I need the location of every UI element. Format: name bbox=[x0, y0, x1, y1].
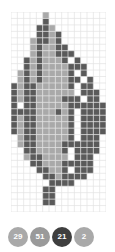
pattern-cell[interactable] bbox=[36, 70, 42, 76]
pattern-cell[interactable] bbox=[43, 70, 49, 76]
pattern-cell[interactable] bbox=[30, 109, 36, 115]
pattern-cell[interactable] bbox=[87, 102, 93, 108]
pattern-cell[interactable] bbox=[24, 83, 30, 89]
pattern-cell[interactable] bbox=[87, 154, 93, 160]
pattern-cell[interactable] bbox=[62, 44, 68, 50]
pattern-cell[interactable] bbox=[49, 89, 55, 95]
pattern-cell[interactable] bbox=[36, 57, 42, 63]
pattern-cell[interactable] bbox=[49, 173, 55, 179]
pattern-cell[interactable] bbox=[55, 167, 61, 173]
pattern-cell[interactable] bbox=[93, 109, 99, 115]
pattern-cell[interactable] bbox=[81, 173, 87, 179]
pattern-cell[interactable] bbox=[49, 96, 55, 102]
pattern-cell[interactable] bbox=[62, 173, 68, 179]
pattern-cell[interactable] bbox=[17, 128, 23, 134]
pattern-cell[interactable] bbox=[74, 167, 80, 173]
pattern-cell[interactable] bbox=[74, 57, 80, 63]
pattern-cell[interactable] bbox=[24, 77, 30, 83]
pattern-cell[interactable] bbox=[49, 193, 55, 199]
pattern-cell[interactable] bbox=[24, 57, 30, 63]
pattern-cell[interactable] bbox=[81, 122, 87, 128]
pattern-cell[interactable] bbox=[68, 160, 74, 166]
pattern-cell[interactable] bbox=[49, 64, 55, 70]
pattern-cell[interactable] bbox=[49, 167, 55, 173]
legend-badge-dark[interactable]: 21 bbox=[52, 227, 72, 247]
pattern-cell[interactable] bbox=[93, 141, 99, 147]
pattern-cell[interactable] bbox=[87, 147, 93, 153]
pattern-cell[interactable] bbox=[43, 31, 49, 37]
pattern-cell[interactable] bbox=[62, 57, 68, 63]
pattern-cell[interactable] bbox=[81, 141, 87, 147]
pattern-cell[interactable] bbox=[49, 199, 55, 205]
pattern-cell[interactable] bbox=[36, 128, 42, 134]
pattern-cell[interactable] bbox=[62, 128, 68, 134]
pattern-cell[interactable] bbox=[68, 89, 74, 95]
pattern-cell[interactable] bbox=[55, 96, 61, 102]
pattern-cell[interactable] bbox=[49, 109, 55, 115]
pattern-cell[interactable] bbox=[68, 102, 74, 108]
pattern-cell[interactable] bbox=[17, 89, 23, 95]
pattern-cell[interactable] bbox=[43, 83, 49, 89]
pattern-cell[interactable] bbox=[100, 128, 106, 134]
pattern-cell[interactable] bbox=[62, 83, 68, 89]
pattern-cell[interactable] bbox=[87, 141, 93, 147]
pattern-cell[interactable] bbox=[49, 160, 55, 166]
pattern-cell[interactable] bbox=[11, 122, 17, 128]
pattern-cell[interactable] bbox=[81, 64, 87, 70]
pattern-cell[interactable] bbox=[36, 89, 42, 95]
pattern-cell[interactable] bbox=[49, 31, 55, 37]
pattern-cell[interactable] bbox=[68, 83, 74, 89]
pattern-cell[interactable] bbox=[43, 89, 49, 95]
pattern-cell[interactable] bbox=[55, 135, 61, 141]
pattern-cell[interactable] bbox=[36, 154, 42, 160]
pattern-cell[interactable] bbox=[49, 70, 55, 76]
pattern-cell[interactable] bbox=[24, 135, 30, 141]
pattern-cell[interactable] bbox=[62, 122, 68, 128]
pattern-cell[interactable] bbox=[36, 64, 42, 70]
pattern-cell[interactable] bbox=[93, 102, 99, 108]
pattern-cell[interactable] bbox=[74, 160, 80, 166]
pattern-cell[interactable] bbox=[81, 167, 87, 173]
pattern-cell[interactable] bbox=[43, 115, 49, 121]
pattern-cell[interactable] bbox=[43, 96, 49, 102]
pattern-cell[interactable] bbox=[11, 115, 17, 121]
pattern-cell[interactable] bbox=[49, 128, 55, 134]
pattern-cell[interactable] bbox=[55, 70, 61, 76]
pattern-cell[interactable] bbox=[68, 141, 74, 147]
pattern-cell[interactable] bbox=[36, 83, 42, 89]
pattern-cell[interactable] bbox=[62, 147, 68, 153]
pattern-cell[interactable] bbox=[68, 115, 74, 121]
pattern-cell[interactable] bbox=[24, 70, 30, 76]
pattern-cell[interactable] bbox=[68, 122, 74, 128]
pattern-cell[interactable] bbox=[62, 51, 68, 57]
pattern-cell[interactable] bbox=[62, 70, 68, 76]
pattern-cell[interactable] bbox=[43, 160, 49, 166]
pattern-cell[interactable] bbox=[36, 31, 42, 37]
pattern-cell[interactable] bbox=[24, 64, 30, 70]
pattern-cell[interactable] bbox=[36, 44, 42, 50]
pattern-cell[interactable] bbox=[43, 186, 49, 192]
pattern-cell[interactable] bbox=[49, 102, 55, 108]
pattern-cell[interactable] bbox=[17, 141, 23, 147]
pattern-cell[interactable] bbox=[62, 115, 68, 121]
pattern-cell[interactable] bbox=[55, 160, 61, 166]
pattern-cell[interactable] bbox=[55, 57, 61, 63]
legend-badge-light[interactable]: 29 bbox=[8, 227, 28, 247]
pattern-cell[interactable] bbox=[30, 77, 36, 83]
pattern-cell[interactable] bbox=[49, 186, 55, 192]
pattern-cell[interactable] bbox=[49, 122, 55, 128]
pattern-cell[interactable] bbox=[36, 96, 42, 102]
legend-badge-medium[interactable]: 51 bbox=[30, 227, 50, 247]
pattern-cell[interactable] bbox=[36, 122, 42, 128]
pattern-cell[interactable] bbox=[24, 147, 30, 153]
pattern-cell[interactable] bbox=[93, 128, 99, 134]
pattern-cell[interactable] bbox=[17, 70, 23, 76]
pattern-cell[interactable] bbox=[49, 51, 55, 57]
pattern-cell[interactable] bbox=[55, 128, 61, 134]
pattern-cell[interactable] bbox=[62, 109, 68, 115]
pattern-cell[interactable] bbox=[30, 115, 36, 121]
pattern-cell[interactable] bbox=[55, 109, 61, 115]
pattern-cell[interactable] bbox=[62, 180, 68, 186]
pattern-cell[interactable] bbox=[55, 44, 61, 50]
pattern-cell[interactable] bbox=[87, 96, 93, 102]
